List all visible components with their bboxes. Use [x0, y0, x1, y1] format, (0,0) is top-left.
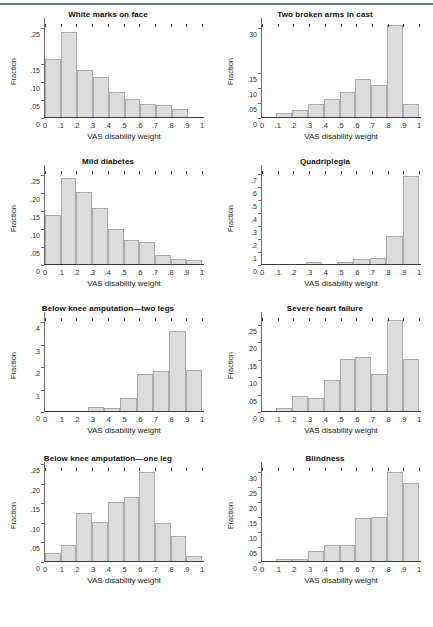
x-tick-mark: [76, 318, 77, 321]
histogram-bar: [61, 545, 77, 561]
x-axis-label: VAS disability weight: [44, 576, 204, 585]
y-tick-mark: [258, 517, 261, 518]
x-tick-label: .4: [322, 118, 328, 130]
y-tick-label: .15: [30, 506, 40, 513]
x-tick-label: .1: [58, 118, 64, 130]
x-tick-mark: [76, 171, 77, 174]
x-tick-label: .2: [290, 412, 296, 424]
x-tick-label: .6: [136, 265, 142, 277]
y-tick-mark: [258, 532, 261, 533]
x-tick-label: .9: [183, 265, 189, 277]
x-tick-mark: [372, 318, 373, 321]
x-tick-mark: [139, 468, 140, 471]
header-rule: [0, 3, 433, 5]
x-tick-label: 0: [260, 265, 264, 277]
x-tick-label: .4: [105, 265, 111, 277]
x-tick-mark: [309, 171, 310, 174]
x-tick-label: .1: [275, 118, 281, 130]
x-tick-mark: [325, 468, 326, 471]
plot-area: 0.05.10.15.250.1.2.3.4.5.6.7.8.91: [44, 24, 202, 118]
x-tick-label: 1: [417, 562, 421, 574]
y-tick-mark: [258, 213, 261, 214]
histogram-bar: [120, 398, 136, 411]
x-tick-mark: [202, 468, 203, 471]
x-tick-label: .3: [306, 562, 312, 574]
x-tick-mark: [108, 171, 109, 174]
x-tick-mark: [325, 171, 326, 174]
y-tick-mark: [258, 239, 261, 240]
figure-panel-grid: White marks on faceFraction0.05.10.15.25…: [0, 0, 433, 627]
x-tick-label: .5: [120, 412, 126, 424]
x-tick-mark: [186, 24, 187, 27]
x-tick-label: .3: [306, 265, 312, 277]
histogram-bar: [76, 513, 92, 561]
x-tick-mark: [92, 171, 93, 174]
x-tick-mark: [293, 24, 294, 27]
x-tick-label: .8: [384, 562, 390, 574]
x-tick-mark: [419, 468, 420, 471]
x-tick-mark: [202, 171, 203, 174]
histogram-bar: [124, 240, 140, 264]
histogram-bar: [340, 545, 356, 561]
x-tick-label: .6: [136, 412, 142, 424]
panel-title: Mild diabetes: [0, 157, 216, 166]
histogram-bar: [403, 483, 419, 561]
x-tick-label: .6: [136, 118, 142, 130]
x-tick-mark: [278, 468, 279, 471]
x-axis-label: VAS disability weight: [44, 132, 204, 141]
y-tick-mark: [41, 345, 44, 346]
histogram-bar: [308, 104, 324, 117]
y-tick-label: .15: [247, 76, 257, 83]
histogram-bar: [370, 258, 387, 264]
x-tick-mark: [341, 318, 342, 321]
histogram-bar: [387, 25, 403, 117]
x-tick-label: .7: [152, 412, 158, 424]
x-axis-label: VAS disability weight: [261, 576, 421, 585]
y-axis-label: Fraction: [225, 318, 237, 412]
panel-title: Below knee amputation—one leg: [0, 454, 216, 463]
x-tick-mark: [278, 171, 279, 174]
histogram-panel: Below knee amputation—two legsFraction0.…: [0, 302, 216, 449]
x-tick-mark: [388, 468, 389, 471]
histogram-bar: [155, 523, 171, 561]
panel-title: Severe heart failure: [217, 304, 433, 313]
y-tick-label: .25: [247, 490, 257, 497]
x-tick-mark: [61, 318, 62, 321]
y-tick-mark: [258, 174, 261, 175]
y-tick-label: .2: [34, 370, 40, 377]
y-tick-label: .05: [30, 545, 40, 552]
y-axis-label: Fraction: [8, 468, 20, 562]
y-axis-label: Fraction: [8, 171, 20, 265]
x-tick-label: .4: [105, 562, 111, 574]
x-tick-label: .6: [353, 118, 359, 130]
plot-area: 0.1.2.3.40.1.2.3.4.5.6.7.8.91: [44, 318, 202, 412]
histogram-bar: [306, 262, 323, 264]
y-tick-label: .20: [30, 486, 40, 493]
x-tick-label: .5: [120, 562, 126, 574]
x-tick-mark: [124, 24, 125, 27]
histogram-bar: [93, 77, 109, 117]
histogram-bar: [186, 556, 202, 561]
x-axis-label: VAS disability weight: [44, 279, 204, 288]
x-tick-mark: [262, 24, 263, 27]
x-axis-label: VAS disability weight: [261, 132, 421, 141]
x-tick-label: .2: [290, 562, 296, 574]
histogram-bar: [340, 359, 356, 411]
x-tick-label: .9: [400, 562, 406, 574]
plot-area: 0.05.10.15.20.25.300.1.2.3.4.5.6.7.8.91: [261, 468, 419, 562]
histogram-bar: [139, 472, 155, 561]
x-tick-mark: [171, 318, 172, 321]
x-tick-label: .6: [136, 562, 142, 574]
x-tick-mark: [293, 171, 294, 174]
y-tick-mark: [258, 88, 261, 89]
x-tick-mark: [186, 318, 187, 321]
y-tick-mark: [258, 547, 261, 548]
x-tick-mark: [186, 171, 187, 174]
x-tick-label: .6: [353, 412, 359, 424]
histogram-bar: [186, 260, 202, 264]
x-tick-label: 0: [43, 562, 47, 574]
x-tick-label: .8: [384, 118, 390, 130]
histogram-bar: [76, 192, 92, 264]
histogram-bar: [92, 522, 108, 561]
x-tick-label: .3: [89, 118, 95, 130]
